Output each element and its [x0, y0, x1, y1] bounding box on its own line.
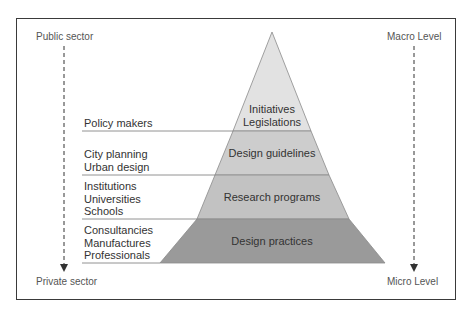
micro-level-label: Micro Level — [387, 276, 438, 287]
private-sector-label: Private sector — [36, 276, 97, 287]
actors-tier-1: Policy makers — [84, 117, 152, 130]
actors-tier-3: Institutions Universities Schools — [84, 180, 141, 218]
macro-level-label: Macro Level — [387, 31, 441, 42]
tier-3-label: Research programs — [212, 191, 332, 204]
tier-1-label: Initiatives Legislations — [222, 103, 322, 129]
tier-2-label: Design guidelines — [212, 147, 332, 160]
actors-tier-2: City planning Urban design — [84, 148, 149, 173]
arrow-head-icon — [60, 264, 68, 272]
actors-tier-4: Consultancies Manufactures Professionals — [84, 224, 153, 262]
tier-4-label: Design practices — [212, 235, 332, 248]
public-sector-label: Public sector — [36, 31, 93, 42]
arrow-head-icon — [410, 264, 418, 272]
